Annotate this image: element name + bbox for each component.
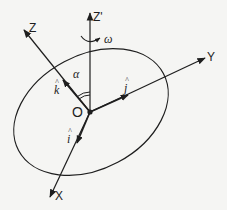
j-hat-caret: ^ <box>125 77 128 85</box>
i-hat-label: ^ i <box>67 133 70 145</box>
k-hat-label: ^ k <box>54 84 59 96</box>
alpha-label: α <box>73 68 79 80</box>
origin-label: O <box>72 105 83 119</box>
j-hat-vector <box>90 95 128 112</box>
z-prime-label: Z' <box>93 11 103 23</box>
x-label: X <box>55 190 63 202</box>
omega-label: ω <box>104 33 112 45</box>
diagram-canvas: Z' Z Y X O ω α ^ k ^ j ^ i <box>0 0 227 210</box>
z-label: Z <box>29 22 36 34</box>
origin-point <box>87 109 92 114</box>
j-hat-label: ^ j <box>124 82 127 94</box>
y-label: Y <box>207 51 215 63</box>
k-hat-caret: ^ <box>55 79 58 87</box>
disc-ellipse <box>0 23 190 201</box>
i-hat-caret: ^ <box>68 128 71 136</box>
alpha-angle-arc-inner <box>79 95 90 99</box>
